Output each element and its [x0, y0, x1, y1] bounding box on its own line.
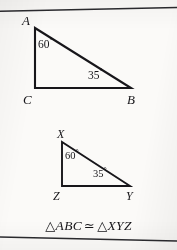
- vertex-label-z: Z: [53, 190, 60, 202]
- caption-right-triangle: XYZ: [108, 218, 132, 233]
- degree-sign-b: °: [100, 67, 103, 76]
- degree-sign-y: °: [104, 166, 107, 175]
- angle-label-a: 60°: [38, 39, 53, 51]
- vertex-label-a: A: [22, 14, 30, 27]
- vertex-label-x: X: [57, 128, 64, 140]
- degree-sign-a: °: [50, 36, 53, 45]
- vertex-label-c: C: [23, 93, 32, 106]
- angle-value-y: 35: [93, 168, 104, 179]
- triangles-drawing: [0, 0, 177, 250]
- congruence-symbol: ≃: [82, 218, 97, 233]
- angle-value-b: 35: [88, 69, 100, 81]
- triangle-symbol-left: △: [45, 218, 55, 233]
- vertex-label-b: B: [127, 93, 135, 106]
- figure-page: A C B 60° 35° X Z Y 60° 35° △ABC≃△XYZ: [0, 0, 177, 250]
- angle-label-x: 60°: [65, 151, 79, 162]
- angle-value-x: 60: [65, 150, 76, 161]
- triangle-symbol-right: △: [97, 218, 107, 233]
- caption-left-triangle: ABC: [56, 218, 82, 233]
- congruence-caption: △ABC≃△XYZ: [0, 218, 177, 234]
- angle-value-a: 60: [38, 38, 50, 50]
- vertex-label-y: Y: [126, 190, 133, 202]
- angle-label-b: 35°: [88, 70, 103, 82]
- angle-label-y: 35°: [93, 169, 107, 180]
- degree-sign-x: °: [76, 148, 79, 157]
